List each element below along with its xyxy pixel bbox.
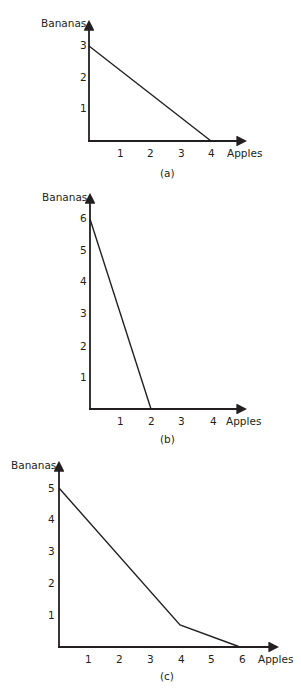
y-axis-label: Bananas: [41, 17, 86, 29]
y-tick-1: 1: [48, 609, 55, 621]
caption-c: (c): [160, 670, 174, 682]
y-axis-label: Bananas: [11, 459, 56, 471]
x-tick-5: 5: [208, 653, 215, 665]
caption-a: (a): [160, 167, 175, 179]
x-tick-4: 4: [210, 415, 217, 427]
y-tick-2: 2: [80, 340, 87, 352]
y-tick-3: 3: [48, 545, 55, 557]
x-tick-2: 2: [148, 415, 155, 427]
x-axis-label: Apples: [226, 415, 261, 427]
x-tick-4: 4: [208, 147, 215, 159]
caption-b: (b): [160, 433, 175, 445]
y-tick-3: 3: [80, 307, 87, 319]
y-tick-1: 1: [80, 371, 87, 383]
y-tick-4: 4: [80, 275, 87, 287]
y-axis-label: Bananas: [42, 191, 87, 203]
y-tick-4: 4: [48, 513, 55, 525]
x-tick-2: 2: [116, 653, 123, 665]
x-tick-3: 3: [147, 653, 154, 665]
chart-b: Bananas 6 5 4 3 2 1 1 2 3 4 Apples (b): [42, 191, 261, 445]
y-tick-6: 6: [80, 212, 87, 224]
x-tick-1: 1: [117, 147, 124, 159]
y-tick-5: 5: [48, 482, 55, 494]
chart-c: Bananas 5 4 3 2 1 1 2 3 4 5 6 Apples (c): [11, 459, 293, 682]
x-tick-4: 4: [178, 653, 185, 665]
ppf-line: [59, 488, 240, 647]
y-tick-2: 2: [48, 577, 55, 589]
x-tick-1: 1: [117, 415, 124, 427]
ppf-line: [89, 46, 211, 141]
ppf-line: [90, 219, 151, 409]
x-tick-3: 3: [178, 147, 185, 159]
x-tick-1: 1: [85, 653, 92, 665]
y-tick-5: 5: [80, 244, 87, 256]
y-tick-2: 2: [80, 71, 87, 83]
x-axis-label: Apples: [258, 653, 293, 665]
x-axis-label: Apples: [227, 147, 262, 159]
x-tick-3: 3: [178, 415, 185, 427]
x-tick-6: 6: [239, 653, 246, 665]
y-tick-1: 1: [80, 102, 87, 114]
x-tick-2: 2: [147, 147, 154, 159]
chart-a: Bananas 3 2 1 1 2 3 4 Apples (a): [41, 17, 262, 179]
y-tick-3: 3: [80, 39, 87, 51]
ppf-figure: Bananas 3 2 1 1 2 3 4 Apples (a) Bananas…: [0, 0, 301, 695]
